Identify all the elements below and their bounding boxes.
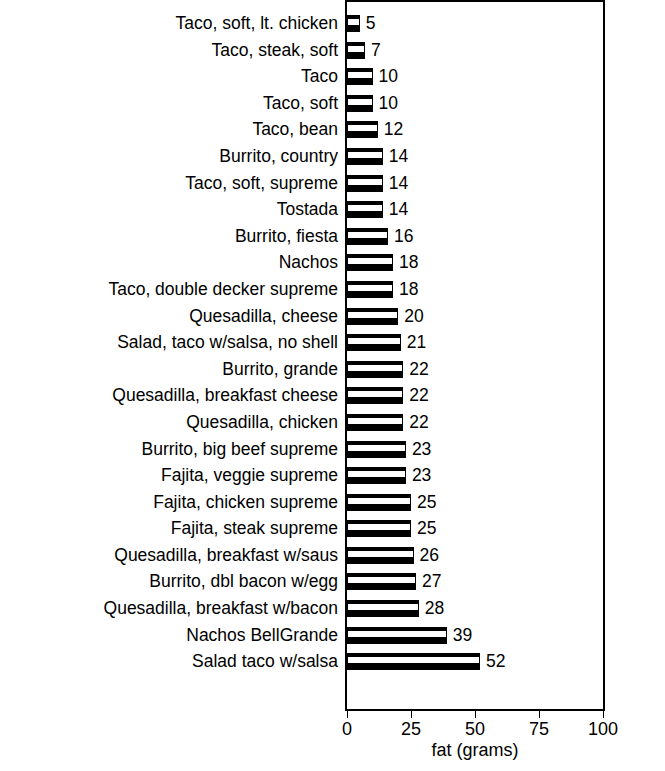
category-label: Fajita, chicken supreme — [0, 489, 345, 516]
bar-value-label: 14 — [383, 172, 408, 195]
category-label: Taco, bean — [0, 116, 345, 143]
bar — [347, 201, 383, 218]
bar-row: 25 — [347, 517, 603, 544]
category-label-column: Taco, soft, lt. chickenTaco, steak, soft… — [0, 10, 345, 675]
bar-row: 7 — [347, 39, 603, 66]
bar-value-label: 52 — [480, 650, 505, 673]
x-axis-tick-label: 75 — [529, 719, 549, 740]
bar-row: 22 — [347, 384, 603, 411]
bar-chart: Taco, soft, lt. chickenTaco, steak, soft… — [0, 0, 665, 771]
bars-container: 5710101214141416181820212222222323252526… — [347, 12, 603, 677]
bar-row: 22 — [347, 411, 603, 438]
bar-value-label: 25 — [411, 491, 436, 514]
bar-value-label: 10 — [373, 65, 398, 88]
x-axis-title: fat (grams) — [345, 740, 605, 761]
bar-row: 18 — [347, 251, 603, 278]
category-label: Quesadilla, breakfast w/bacon — [0, 595, 345, 622]
category-label: Quesadilla, breakfast w/saus — [0, 542, 345, 569]
bar-value-label: 28 — [419, 597, 444, 620]
x-axis-tick — [539, 711, 540, 718]
bar — [347, 281, 393, 298]
bar — [347, 361, 403, 378]
category-label: Taco, soft — [0, 90, 345, 117]
bar-value-label: 14 — [383, 198, 408, 221]
bar-row: 27 — [347, 570, 603, 597]
category-label: Nachos — [0, 249, 345, 276]
category-label: Burrito, fiesta — [0, 223, 345, 250]
bar — [347, 15, 360, 32]
bar — [347, 228, 388, 245]
bar — [347, 334, 401, 351]
bar-value-label: 22 — [403, 411, 428, 434]
category-label: Taco — [0, 63, 345, 90]
bar-value-label: 23 — [406, 438, 431, 461]
bar-row: 22 — [347, 358, 603, 385]
category-label: Fajita, veggie supreme — [0, 462, 345, 489]
bar-value-label: 21 — [401, 331, 426, 354]
bar — [347, 627, 447, 644]
x-axis-tick — [603, 711, 604, 718]
category-label: Quesadilla, breakfast cheese — [0, 382, 345, 409]
bar-row: 16 — [347, 225, 603, 252]
category-label: Nachos BellGrande — [0, 622, 345, 649]
x-axis-tick — [411, 711, 412, 718]
bar-row: 20 — [347, 305, 603, 332]
bar — [347, 121, 378, 138]
bar-row: 14 — [347, 145, 603, 172]
category-label: Salad, taco w/salsa, no shell — [0, 329, 345, 356]
category-label: Burrito, country — [0, 143, 345, 170]
bar — [347, 42, 365, 59]
category-label: Burrito, big beef supreme — [0, 436, 345, 463]
category-label: Burrito, dbl bacon w/egg — [0, 568, 345, 595]
category-label: Quesadilla, cheese — [0, 303, 345, 330]
bar-row: 14 — [347, 172, 603, 199]
bar-value-label: 20 — [398, 305, 423, 328]
bar-value-label: 12 — [378, 118, 403, 141]
bar-row: 10 — [347, 92, 603, 119]
bar — [347, 547, 414, 564]
bar — [347, 573, 416, 590]
bar — [347, 254, 393, 271]
bar-value-label: 10 — [373, 92, 398, 115]
bar-value-label: 22 — [403, 358, 428, 381]
category-label: Taco, soft, supreme — [0, 170, 345, 197]
category-label: Salad taco w/salsa — [0, 648, 345, 675]
bar-value-label: 18 — [393, 251, 418, 274]
x-axis-tick-label: 50 — [465, 719, 485, 740]
bar — [347, 520, 411, 537]
category-label: Tostada — [0, 196, 345, 223]
bar — [347, 653, 480, 670]
bar — [347, 387, 403, 404]
bar — [347, 441, 406, 458]
bar-row: 12 — [347, 118, 603, 145]
category-label: Burrito, grande — [0, 356, 345, 383]
bar-value-label: 14 — [383, 145, 408, 168]
bar-row: 18 — [347, 278, 603, 305]
bar — [347, 95, 373, 112]
bar-row: 10 — [347, 65, 603, 92]
x-axis-tick-label: 25 — [401, 719, 421, 740]
category-label: Quesadilla, chicken — [0, 409, 345, 436]
bar-value-label: 5 — [360, 12, 376, 35]
bar-value-label: 25 — [411, 517, 436, 540]
bar — [347, 175, 383, 192]
bar-value-label: 39 — [447, 624, 472, 647]
bar — [347, 414, 403, 431]
bar-row: 23 — [347, 438, 603, 465]
bar-row: 39 — [347, 624, 603, 651]
bar — [347, 494, 411, 511]
bar-row: 5 — [347, 12, 603, 39]
plot-area: 5710101214141416181820212222222323252526… — [345, 0, 605, 711]
category-label: Fajita, steak supreme — [0, 515, 345, 542]
bar-row: 23 — [347, 464, 603, 491]
bar-value-label: 18 — [393, 278, 418, 301]
x-axis-tick-label: 0 — [342, 719, 352, 740]
bar — [347, 467, 406, 484]
bar-row: 21 — [347, 331, 603, 358]
bar-value-label: 7 — [365, 39, 381, 62]
bar — [347, 600, 419, 617]
bar — [347, 308, 398, 325]
bar-value-label: 22 — [403, 384, 428, 407]
bar-value-label: 27 — [416, 570, 441, 593]
category-label: Taco, soft, lt. chicken — [0, 10, 345, 37]
